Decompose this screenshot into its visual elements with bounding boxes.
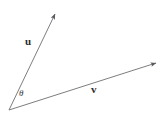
- angle-theta-label: θ: [19, 89, 23, 98]
- vector-diagram-canvas: [0, 0, 165, 114]
- vector-v-label: v: [91, 84, 97, 95]
- vector-u-arrow: [9, 14, 55, 110]
- vector-angle-diagram: u v θ: [0, 0, 165, 114]
- vector-v-arrow: [9, 63, 156, 110]
- vector-u-label: u: [25, 36, 31, 47]
